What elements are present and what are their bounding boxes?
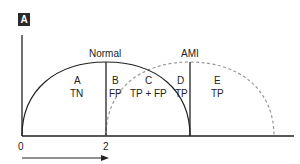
tick-label-0: 0 <box>18 142 24 152</box>
normal-curve-label: Normal <box>89 49 121 59</box>
region-b-letter: B <box>112 76 119 86</box>
region-d-letter: D <box>177 76 184 86</box>
region-c-letter: C <box>145 76 152 86</box>
arrow-head-icon <box>101 155 109 161</box>
panel-label-badge: A <box>18 13 30 26</box>
region-e-class: TP <box>211 89 224 99</box>
region-e-letter: E <box>214 76 221 86</box>
ami-curve-label: AMI <box>181 49 199 59</box>
region-c-class: TP + FP <box>130 89 167 99</box>
region-b-class: FP <box>109 89 122 99</box>
tick-label-2: 2 <box>103 142 109 152</box>
region-d-class: TP <box>175 89 188 99</box>
region-a-letter: A <box>74 76 81 86</box>
region-a-class: TN <box>70 89 83 99</box>
